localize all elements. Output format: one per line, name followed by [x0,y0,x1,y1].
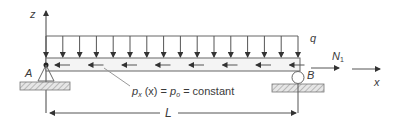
support-a-label: A [24,67,32,79]
distributed-load [46,36,298,57]
distributed-load-label: q [310,32,317,44]
axial-load-expression: px (x) = po = constant [131,85,234,98]
end-force-label: N1 [332,50,344,63]
beam-diagram: z q A B N1 x px (x) = po = constant L [0,0,397,124]
dimension-label: L [165,106,172,120]
z-axis-label: z [29,8,36,20]
x-axis-label: x [373,76,380,88]
support-b-label: B [307,69,314,81]
